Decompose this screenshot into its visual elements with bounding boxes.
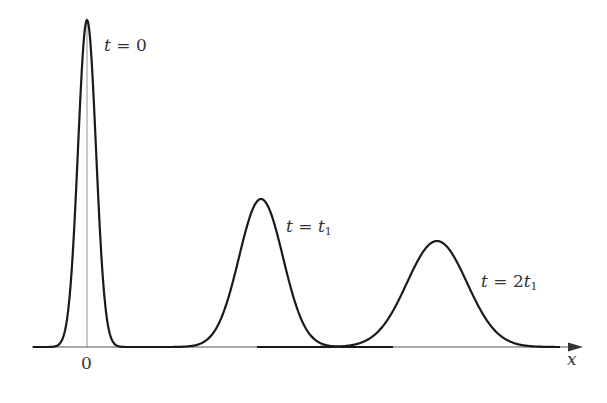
wave-packet-diagram: t = 0 t = t1 t = 2t1 0 x bbox=[0, 0, 607, 403]
label-t1: t = t1 bbox=[286, 216, 332, 238]
label-2t1: t = 2t1 bbox=[481, 271, 538, 293]
wave-packet-t1 bbox=[129, 199, 393, 347]
label-t0: t = 0 bbox=[104, 35, 147, 55]
wave-packet-2t1 bbox=[257, 241, 560, 347]
x-axis-label: x bbox=[567, 349, 577, 369]
origin-label: 0 bbox=[81, 353, 92, 373]
